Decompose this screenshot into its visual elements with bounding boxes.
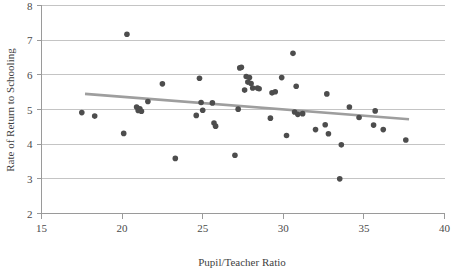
data-point [193, 113, 199, 119]
data-point [198, 100, 204, 106]
data-point [293, 83, 299, 89]
data-point [300, 111, 306, 117]
data-point [279, 75, 285, 81]
data-point [371, 122, 377, 128]
data-point [339, 142, 345, 148]
data-point [322, 122, 328, 128]
data-point [372, 108, 378, 114]
y-tick-label-4: 4 [27, 138, 33, 150]
x-tick-label-40: 40 [439, 222, 451, 234]
x-tick-label-25: 25 [197, 222, 209, 234]
x-tick-label-20: 20 [117, 222, 129, 234]
data-point [313, 127, 319, 133]
data-point [324, 91, 330, 97]
data-point [232, 152, 238, 158]
data-point [326, 131, 332, 137]
data-point [200, 107, 206, 113]
data-point [242, 87, 248, 93]
data-point [235, 106, 241, 112]
data-point [403, 137, 409, 143]
y-axis-title: Rate of Return to Schooling [4, 48, 16, 172]
plot-background [0, 0, 451, 275]
data-point [337, 176, 343, 182]
data-point [272, 89, 278, 95]
x-tick-label-35: 35 [358, 222, 370, 234]
x-tick-label-30: 30 [278, 222, 290, 234]
data-point [139, 108, 145, 114]
y-tick-label-5: 5 [27, 104, 33, 116]
y-tick-label-6: 6 [27, 69, 33, 81]
y-tick-label-8: 8 [27, 0, 33, 12]
data-point [347, 104, 353, 110]
data-point [247, 75, 253, 81]
data-point [290, 51, 296, 57]
data-point [145, 99, 151, 105]
data-point [256, 86, 262, 92]
y-tick-label-3: 3 [27, 173, 33, 185]
data-point [92, 113, 98, 119]
data-point [210, 100, 216, 106]
data-point [160, 81, 166, 87]
data-point [250, 85, 256, 91]
data-point [295, 112, 301, 118]
data-point [268, 115, 274, 121]
y-tick-label-7: 7 [27, 34, 33, 46]
y-tick-label-2: 2 [27, 208, 33, 220]
data-point [172, 156, 178, 162]
x-tick-label-15: 15 [36, 222, 48, 234]
data-point [239, 64, 245, 70]
x-axis-title: Pupil/Teacher Ratio [198, 256, 286, 268]
data-point [284, 133, 290, 139]
scatter-plot-figure: 152025303540 2345678 Pupil/Teacher Ratio… [0, 0, 451, 275]
data-point [380, 127, 386, 133]
data-point [79, 110, 85, 116]
data-point [356, 115, 362, 121]
data-point [197, 76, 203, 82]
data-point [121, 131, 127, 137]
data-point [124, 31, 130, 37]
data-point [213, 123, 219, 129]
